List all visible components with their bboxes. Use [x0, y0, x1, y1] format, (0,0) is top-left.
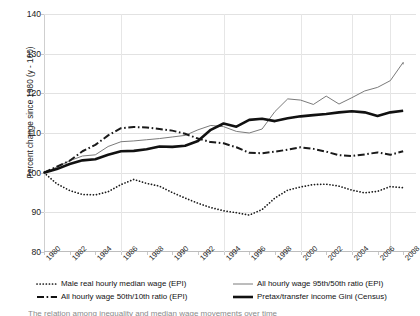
x-tick-mark	[326, 252, 327, 255]
legend-item[interactable]: Pretax/transfer income Gini (Census)	[232, 292, 418, 302]
x-tick-mark	[70, 252, 71, 255]
x-tick-mark	[275, 252, 276, 255]
x-tick-mark	[301, 252, 302, 255]
chart-container: Percent change since 1980 (y - 100) 8090…	[0, 0, 420, 316]
x-tick-mark	[249, 252, 250, 255]
series-line	[44, 173, 403, 215]
legend-swatch-icon	[36, 292, 58, 302]
legend-label: Male real hourly median wage (EPI)	[61, 280, 186, 288]
series-line	[44, 127, 403, 173]
x-tick-mark	[121, 252, 122, 255]
y-tick-label: 110	[27, 128, 41, 138]
x-tick-mark	[198, 252, 199, 255]
x-tick-mark	[224, 252, 225, 255]
y-tick-label: 90	[31, 207, 41, 217]
plot-area: 8090100110120130140 19801982198419861988…	[44, 14, 416, 252]
legend-item[interactable]: All hourly wage 95th/50th ratio (EPI)	[232, 279, 418, 289]
x-tick-mark	[403, 252, 404, 255]
y-tick-label: 130	[27, 49, 41, 59]
legend-label: All hourly wage 50th/10th ratio (EPI)	[61, 293, 187, 301]
chart-legend: Male real hourly median wage (EPI)All ho…	[36, 277, 418, 303]
x-tick-mark	[352, 252, 353, 255]
legend-swatch-icon	[232, 292, 254, 302]
series-line	[44, 111, 403, 173]
y-tick-label: 100	[27, 168, 41, 178]
legend-label: All hourly wage 95th/50th ratio (EPI)	[257, 280, 383, 288]
series-lines	[44, 14, 416, 252]
x-tick-mark	[95, 252, 96, 255]
x-tick-mark	[44, 252, 45, 255]
y-tick-label: 140	[27, 9, 41, 19]
legend-swatch-icon	[232, 279, 254, 289]
x-tick-mark	[172, 252, 173, 255]
figure-caption: The relation among inequality and median…	[28, 309, 420, 316]
legend-item[interactable]: Male real hourly median wage (EPI)	[36, 279, 232, 289]
y-tick-label: 120	[27, 88, 41, 98]
x-tick-mark	[147, 252, 148, 255]
x-tick-mark	[378, 252, 379, 255]
legend-swatch-icon	[36, 279, 58, 289]
legend-item[interactable]: All hourly wage 50th/10th ratio (EPI)	[36, 292, 232, 302]
y-tick-label: 80	[31, 247, 41, 257]
legend-label: Pretax/transfer income Gini (Census)	[257, 293, 387, 301]
